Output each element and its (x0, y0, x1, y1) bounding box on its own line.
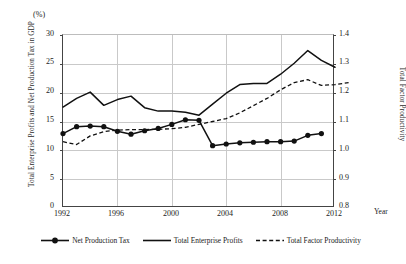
data-point-net-production-tax (101, 124, 106, 129)
legend-item-net-production-tax: Net Production Tax (41, 236, 130, 245)
y-axis-right-title: Total Factor Productivity (398, 14, 406, 194)
y-tick-right-1.1: 1.1 (339, 115, 361, 124)
chart-legend: Net Production Tax Total Enterprise Prof… (0, 236, 402, 245)
legend-item-total-factor-productivity: Total Factor Productivity (256, 236, 361, 245)
data-point-net-production-tax (183, 117, 188, 122)
y-tick-right-1.0: 1.0 (339, 144, 361, 153)
data-point-net-production-tax (278, 139, 283, 144)
dashed-line-swatch-icon (256, 236, 284, 245)
x-tick-2000: 2000 (151, 209, 191, 218)
x-tick-1992: 1992 (42, 209, 82, 218)
y-tick-left-30: 30 (32, 29, 54, 38)
x-tick-2012: 2012 (314, 209, 354, 218)
data-point-net-production-tax (319, 131, 324, 136)
data-point-net-production-tax (224, 141, 229, 146)
line-marker-swatch-icon (41, 236, 69, 245)
y-axis-left-title: Total Enterprise Profits and Net Product… (28, 14, 36, 194)
data-point-net-production-tax (292, 139, 297, 144)
data-point-net-production-tax (196, 118, 201, 123)
data-point-net-production-tax (88, 124, 93, 129)
y-tick-right-1.3: 1.3 (339, 57, 361, 66)
data-point-net-production-tax (74, 124, 79, 129)
x-axis-title: Year (374, 207, 388, 216)
series-layer (63, 35, 335, 208)
data-point-net-production-tax (237, 140, 242, 145)
y-tick-right-1.4: 1.4 (339, 29, 361, 38)
data-point-net-production-tax (115, 129, 120, 134)
y-tick-right-1.2: 1.2 (339, 86, 361, 95)
x-tick-1996: 1996 (96, 209, 136, 218)
data-point-net-production-tax (169, 122, 174, 127)
data-point-net-production-tax (156, 126, 161, 131)
data-point-net-production-tax (128, 132, 133, 137)
y-tick-left-5: 5 (32, 173, 54, 182)
data-point-net-production-tax (142, 128, 147, 133)
legend-label-net-production-tax: Net Production Tax (72, 236, 130, 245)
legend-label-total-factor-productivity: Total Factor Productivity (287, 236, 361, 245)
legend-label-total-enterprise-profits: Total Enterprise Profits (174, 236, 243, 245)
legend-item-total-enterprise-profits: Total Enterprise Profits (143, 236, 243, 245)
line-swatch-icon (143, 236, 171, 245)
y-tick-left-15: 15 (32, 115, 54, 124)
x-tick-2008: 2008 (260, 209, 300, 218)
y-tick-left-10: 10 (32, 144, 54, 153)
data-point-net-production-tax (251, 140, 256, 145)
data-point-net-production-tax (60, 131, 65, 136)
x-tick-2004: 2004 (205, 209, 245, 218)
data-point-net-production-tax (264, 139, 269, 144)
plot-area (62, 34, 334, 207)
data-point-net-production-tax (305, 133, 310, 138)
y-tick-right-0.9: 0.9 (339, 173, 361, 182)
y-tick-left-20: 20 (32, 86, 54, 95)
y-tick-left-25: 25 (32, 57, 54, 66)
data-point-net-production-tax (210, 143, 215, 148)
